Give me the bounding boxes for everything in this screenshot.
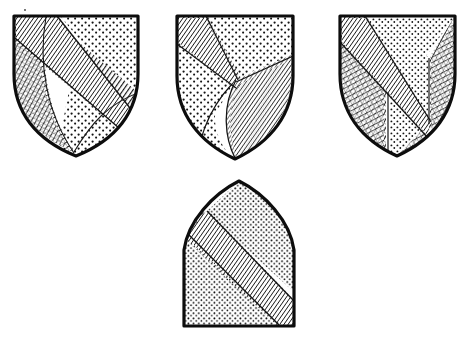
ink-fleck-icon <box>24 9 26 11</box>
engraving-plate <box>0 0 472 343</box>
ink-fleck-icon <box>195 221 197 223</box>
ink-fleck-icon <box>191 229 192 230</box>
shields-illustration <box>0 0 472 343</box>
